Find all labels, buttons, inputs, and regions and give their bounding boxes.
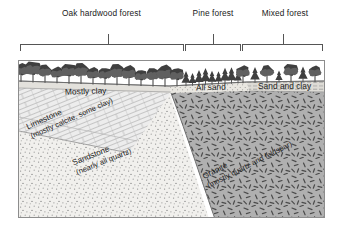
zone-label-mixed-forest: Mixed forest xyxy=(247,8,323,18)
zone-label-pine-forest: Pine forest xyxy=(178,8,248,18)
figure-root: Oak hardwood forest Pine forest Mixed fo… xyxy=(0,0,343,236)
cross-section-frame: Mostly clay All sand Sand and clay Limes… xyxy=(18,60,325,218)
bracket-oak xyxy=(20,44,183,51)
bracket-mixed xyxy=(242,44,322,51)
zone-label-oak-hardwood-forest: Oak hardwood forest xyxy=(20,8,183,18)
bracket-pine xyxy=(185,44,240,51)
